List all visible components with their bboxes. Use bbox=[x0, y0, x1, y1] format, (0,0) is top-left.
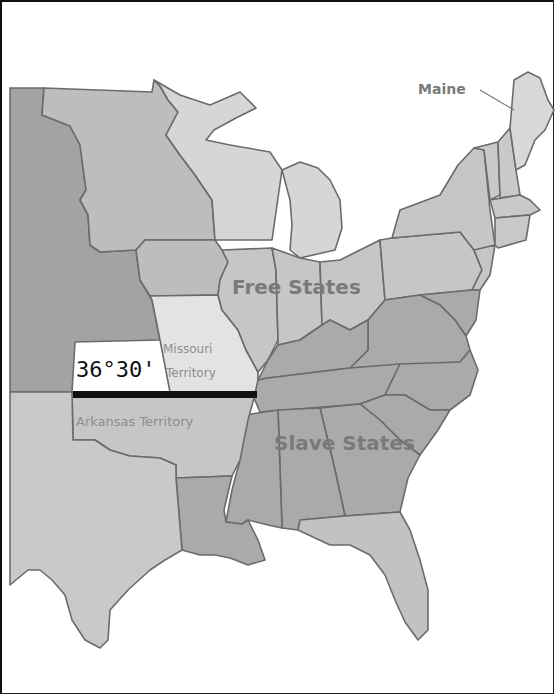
territory-florida bbox=[298, 512, 428, 640]
label-slave-states: Slave States bbox=[274, 431, 415, 455]
label-maine: Maine bbox=[418, 81, 466, 97]
state-maine bbox=[510, 72, 554, 170]
label-missouri-territory-line1: Missouri bbox=[163, 342, 212, 356]
label-missouri-territory-line2: Territory bbox=[165, 366, 216, 380]
maine-leader-line bbox=[480, 90, 514, 110]
region-iowa bbox=[136, 240, 228, 296]
compromise-line-36-30 bbox=[73, 391, 257, 398]
label-arkansas-territory: Arkansas Territory bbox=[76, 414, 194, 429]
state-massachusetts bbox=[490, 195, 540, 218]
missouri-compromise-map: Maine Free States Slave States Missouri … bbox=[0, 0, 556, 696]
label-latitude-36-30: 36°30' bbox=[76, 357, 155, 382]
state-connecticut-rhode-island bbox=[495, 215, 530, 248]
region-michigan bbox=[282, 162, 342, 258]
label-free-states: Free States bbox=[232, 275, 361, 299]
